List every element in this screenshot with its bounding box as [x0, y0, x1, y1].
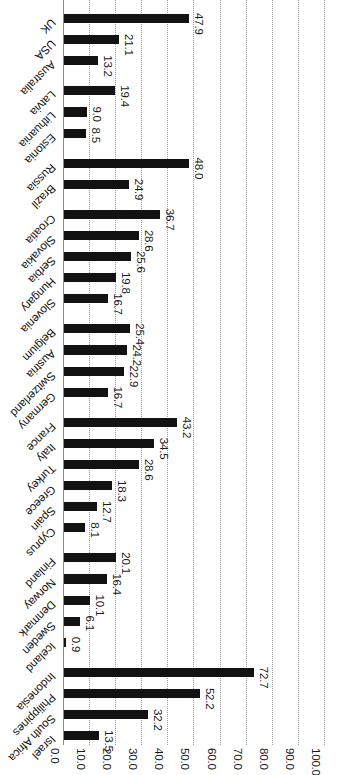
- bar: [64, 180, 129, 189]
- bar-value-label: 28.6: [143, 459, 155, 481]
- bar-value-label: 25.4: [134, 323, 146, 345]
- bar-value-label: 32.2: [152, 709, 164, 731]
- bar-value-label: 19.8: [120, 272, 132, 294]
- bar: [64, 481, 112, 490]
- bar-value-label: 8.5: [90, 128, 102, 143]
- value-axis-tick-label: 10.0: [75, 748, 87, 770]
- bar: [64, 553, 116, 562]
- bar: [64, 107, 87, 116]
- bar: [64, 574, 107, 583]
- category-label: USA: [33, 38, 58, 63]
- bar-value-label: 8.1: [89, 522, 101, 537]
- bar: [64, 388, 108, 397]
- bar: [64, 294, 108, 303]
- bar-value-label: 16.7: [112, 293, 124, 315]
- bar-value-label: 19.4: [119, 85, 131, 107]
- bar-value-label: 16.7: [112, 387, 124, 409]
- bar: [64, 324, 130, 333]
- bar-value-label: 13.2: [102, 55, 114, 77]
- bar-value-label: 6.1: [84, 616, 96, 631]
- value-axis-tick-label: 90.0: [284, 748, 296, 770]
- bar: [64, 638, 66, 647]
- bar-value-label: 36.7: [164, 209, 176, 231]
- bar: [64, 252, 131, 261]
- value-axis-tick-label: 0.0: [49, 748, 61, 763]
- category-label: UK: [38, 17, 58, 37]
- bar: [64, 502, 97, 511]
- bar: [64, 35, 119, 44]
- bar: [64, 231, 139, 240]
- bar: [64, 86, 115, 95]
- bar-value-label: 12.7: [101, 501, 113, 523]
- value-axis-tick-label: 50.0: [180, 748, 192, 770]
- gridline: [141, 0, 142, 745]
- value-axis-tick-label: 40.0: [153, 748, 165, 770]
- bar-value-label: 18.3: [116, 480, 128, 502]
- bar: [64, 210, 160, 219]
- bar-value-label: 13.5: [103, 730, 115, 752]
- bar: [64, 460, 139, 469]
- bar-value-label: 52.2: [204, 688, 216, 710]
- bar: [64, 159, 189, 168]
- bar-value-label: 25.6: [135, 251, 147, 273]
- bar: [64, 439, 154, 448]
- value-axis-tick-label: 70.0: [232, 748, 244, 770]
- bar-value-label: 0.9: [70, 637, 82, 652]
- category-label: Cyprus: [24, 526, 58, 560]
- chart-rotated-canvas: 0.010.020.030.040.050.060.070.080.090.01…: [0, 0, 347, 775]
- bar: [64, 418, 177, 427]
- gridline: [167, 0, 168, 745]
- bar-value-label: 48.0: [193, 158, 205, 180]
- bar-value-label: 9.0: [92, 106, 104, 121]
- bar-value-label: 21.1: [123, 34, 135, 56]
- gridline: [324, 0, 325, 745]
- value-axis-tick-label: 80.0: [258, 748, 270, 770]
- bar: [64, 710, 148, 719]
- bar-value-label: 28.6: [143, 230, 155, 252]
- bar: [64, 273, 116, 282]
- bar: [64, 14, 189, 23]
- gridline: [298, 0, 299, 745]
- gridline: [246, 0, 247, 745]
- gridline: [220, 0, 221, 745]
- bar-value-label: 16.4: [111, 573, 123, 595]
- bar: [64, 523, 85, 532]
- value-axis-tick-label: 60.0: [206, 748, 218, 770]
- bar: [64, 617, 80, 626]
- value-axis-tick-label: 30.0: [127, 748, 139, 770]
- bar: [64, 367, 124, 376]
- bar-value-label: 10.1: [94, 595, 106, 617]
- bar-value-label: 43.2: [181, 417, 193, 439]
- value-axis-tick-label: 100.0: [310, 748, 322, 775]
- bar-chart: 0.010.020.030.040.050.060.070.080.090.01…: [0, 0, 347, 775]
- bar: [64, 56, 98, 65]
- bar-value-label: 20.1: [120, 552, 132, 574]
- bar-value-label: 72.7: [258, 667, 270, 689]
- bar-value-label: 24.9: [133, 179, 145, 201]
- bar-value-label: 47.9: [193, 13, 205, 35]
- bar: [64, 129, 86, 138]
- bar-value-label: 22.9: [128, 366, 140, 388]
- bar: [64, 345, 127, 354]
- bar: [64, 689, 200, 698]
- bar: [64, 668, 254, 677]
- bar-value-label: 34.5: [158, 438, 170, 460]
- plot-area: 0.010.020.030.040.050.060.070.080.090.01…: [0, 0, 347, 775]
- bar-value-label: 24.2: [131, 344, 143, 366]
- bar: [64, 596, 90, 605]
- bar: [64, 731, 99, 740]
- gridline: [272, 0, 273, 745]
- gridline: [194, 0, 195, 745]
